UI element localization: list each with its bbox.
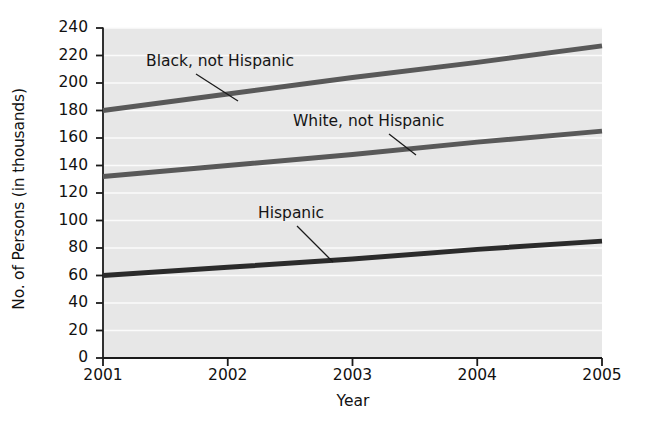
x-tick-label: 2003: [313, 368, 393, 384]
x-tick-label: 2004: [437, 368, 517, 384]
x-axis-tick-labels: 20012002200320042005: [0, 368, 646, 392]
series-label-2: Hispanic: [258, 204, 324, 222]
series-label-1: White, not Hispanic: [293, 112, 444, 130]
x-tick-label: 2002: [188, 368, 268, 384]
series-label-0: Black, not Hispanic: [146, 52, 294, 70]
x-axis-title: Year: [103, 392, 603, 410]
x-tick-label: 2005: [562, 368, 642, 384]
line-chart-figure: No. of Persons (in thousands) 0204060801…: [0, 0, 646, 435]
x-tick-label: 2001: [63, 368, 143, 384]
